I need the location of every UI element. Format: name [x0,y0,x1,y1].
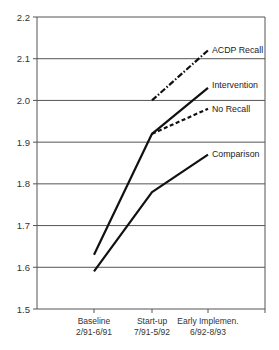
series-line-intervention [94,88,208,255]
x-tick-label-dates: 6/92-8/93 [190,327,226,337]
y-tick-label: 2.0 [17,95,30,106]
y-axis-ticks: 1.51.61.71.81.92.02.12.2 [17,12,30,315]
y-tick-label: 2.2 [17,12,30,23]
y-tick-label: 1.5 [17,304,30,315]
series-line-no-recall [152,109,208,134]
y-tick-label: 1.6 [17,262,30,273]
series-line-acdp-recall [152,50,208,100]
x-tick-label: Early Implemen. [177,316,238,326]
series-label-comparison: Comparison [212,149,260,159]
x-tick-label: Baseline [78,316,111,326]
x-axis-ticks: Baseline2/91-6/91Start-up7/91-5/92Early … [76,309,239,337]
series-label-no-recall: No Recall [212,104,250,114]
axes [37,17,265,313]
gridlines [33,17,265,309]
series-label-acdp-recall: ACDP Recall [212,45,263,55]
data-series [94,50,208,271]
y-tick-label: 1.8 [17,178,30,189]
series-line-comparison [94,155,208,272]
y-tick-label: 1.7 [17,220,30,231]
x-tick-label-dates: 7/91-5/92 [134,327,170,337]
series-label-intervention: Intervention [212,80,258,90]
x-tick-label-dates: 2/91-6/91 [76,327,112,337]
y-tick-label: 1.9 [17,137,30,148]
y-tick-label: 2.1 [17,53,30,64]
x-tick-label: Start-up [137,316,168,326]
line-chart: 1.51.61.71.81.92.02.12.2 Baseline2/91-6/… [0,0,279,350]
